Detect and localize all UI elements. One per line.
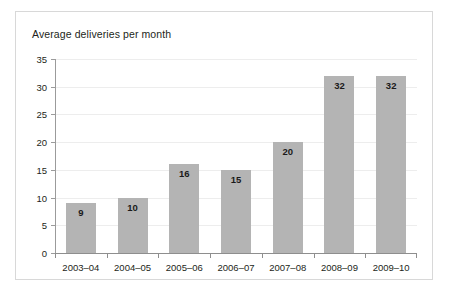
chart-figure: Average deliveries per month 05101520253… (15, 11, 433, 280)
x-tick-label: 2007–08 (269, 262, 306, 273)
x-tick (210, 253, 211, 258)
bar: 9 (66, 203, 96, 253)
x-tick (262, 253, 263, 258)
x-tick (107, 253, 108, 258)
bar: 32 (324, 76, 354, 253)
x-tick (365, 253, 366, 258)
y-tick (51, 198, 56, 199)
x-tick-label: 2009–10 (373, 262, 410, 273)
gridline (55, 142, 417, 143)
bar-value-label: 10 (118, 202, 148, 213)
y-tick-label: 15 (36, 164, 47, 175)
y-tick-label: 0 (42, 248, 47, 259)
bar-value-label: 32 (376, 80, 406, 91)
y-tick-label: 10 (36, 192, 47, 203)
plot-area: 05101520253035 9101615203232 2003–042004… (55, 59, 417, 254)
y-tick (51, 170, 56, 171)
bar: 16 (169, 164, 199, 253)
bar: 10 (118, 198, 148, 253)
x-tick-label: 2004–05 (114, 262, 151, 273)
y-tick (51, 225, 56, 226)
y-tick-label: 35 (36, 54, 47, 65)
bar: 32 (376, 76, 406, 253)
gridline (55, 59, 417, 60)
y-tick-label: 5 (42, 220, 47, 231)
x-tick (158, 253, 159, 258)
x-tick-label: 2008–09 (321, 262, 358, 273)
y-tick (51, 59, 56, 60)
x-tick-label: 2006–07 (218, 262, 255, 273)
x-tick-label: 2003–04 (62, 262, 99, 273)
bar-value-label: 16 (169, 168, 199, 179)
y-tick-label: 25 (36, 109, 47, 120)
y-tick (51, 114, 56, 115)
y-tick-label: 20 (36, 137, 47, 148)
bar-value-label: 32 (324, 80, 354, 91)
x-axis-line (55, 253, 417, 254)
bar-value-label: 15 (221, 174, 251, 185)
bar: 20 (273, 142, 303, 253)
x-tick-label: 2005–06 (166, 262, 203, 273)
chart-title: Average deliveries per month (32, 28, 171, 40)
bar-value-label: 20 (273, 146, 303, 157)
bar-value-label: 9 (66, 207, 96, 218)
gridline (55, 87, 417, 88)
x-tick (55, 253, 56, 258)
gridline (55, 114, 417, 115)
y-tick (51, 142, 56, 143)
y-tick (51, 87, 56, 88)
y-tick-label: 30 (36, 81, 47, 92)
x-tick (314, 253, 315, 258)
x-tick (416, 253, 417, 258)
bar: 15 (221, 170, 251, 253)
